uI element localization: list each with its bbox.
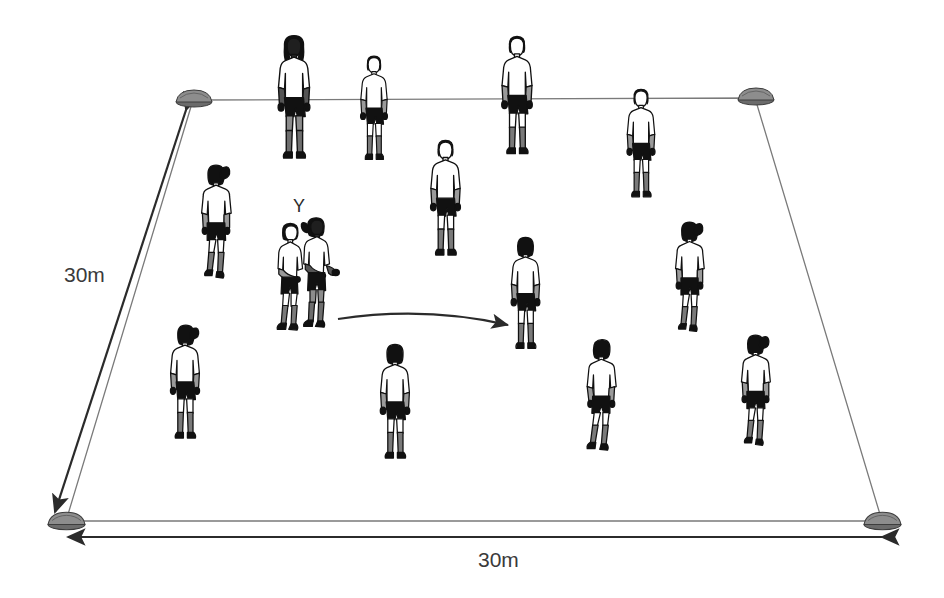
player-bottom-center — [380, 344, 409, 458]
left-dimension-label: 30m — [64, 263, 105, 287]
ball-carrier-pair — [277, 218, 339, 330]
grid-boundary — [66, 98, 882, 521]
player-top-3 — [502, 36, 533, 153]
cone-top-right — [738, 88, 774, 105]
player-bottom-right-2 — [741, 335, 770, 445]
cone-top-left — [176, 90, 212, 107]
player-top-1 — [278, 36, 310, 158]
player-top-4 — [627, 89, 655, 197]
grid-outline — [66, 98, 882, 521]
player-center-right — [511, 237, 540, 348]
pair-marker-label: Y — [293, 196, 305, 217]
bottom-dimension-label: 30m — [478, 548, 519, 572]
left-dimension-arrow — [55, 110, 186, 512]
rugby-drill-diagram — [0, 0, 944, 598]
diagram-canvas: 30m 30m Y — [0, 0, 944, 598]
player-center-upper — [431, 140, 461, 255]
cone-bottom-left — [48, 512, 85, 529]
dimension-arrows — [55, 110, 882, 537]
run-direction-arrow — [338, 314, 508, 325]
player-left-upper — [202, 165, 232, 278]
pair-player-left — [277, 223, 302, 330]
player-right-middle — [676, 222, 705, 331]
player-top-2 — [361, 56, 388, 159]
player-bottom-right-1 — [587, 340, 616, 450]
motion-arrow-path — [338, 314, 508, 325]
player-left-lower — [170, 325, 199, 438]
cone-bottom-right — [864, 512, 901, 529]
pair-player-right — [301, 218, 339, 327]
